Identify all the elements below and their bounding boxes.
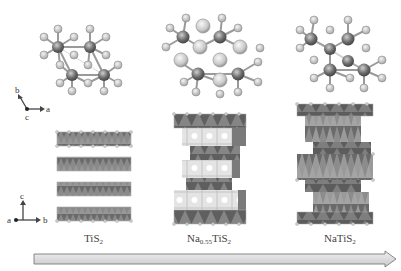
na055tis2-layered-view: [172, 112, 252, 230]
axis-c-label-bottom: c: [20, 191, 24, 201]
axis-triad-top: b a c: [0, 85, 50, 125]
axis-a-label: a: [46, 104, 50, 114]
tis2-layered-view: [55, 130, 135, 225]
axis-c-label: c: [25, 112, 29, 122]
na055tis2-top-view: [148, 2, 278, 102]
label-na055tis2: Na0.55TiS2: [187, 232, 231, 246]
axis-triad-bottom: c b a: [0, 192, 50, 232]
axis-a-label-bottom: a: [7, 215, 11, 225]
natis2-top-view: [278, 4, 398, 99]
natis2-layered-view: [295, 100, 380, 228]
axis-b-label: b: [15, 85, 20, 95]
axis-b-label-bottom: b: [43, 215, 48, 225]
progression-arrow: [30, 250, 400, 268]
label-tis2: TiS2: [84, 232, 103, 246]
label-natis2: NaTiS2: [324, 232, 356, 246]
